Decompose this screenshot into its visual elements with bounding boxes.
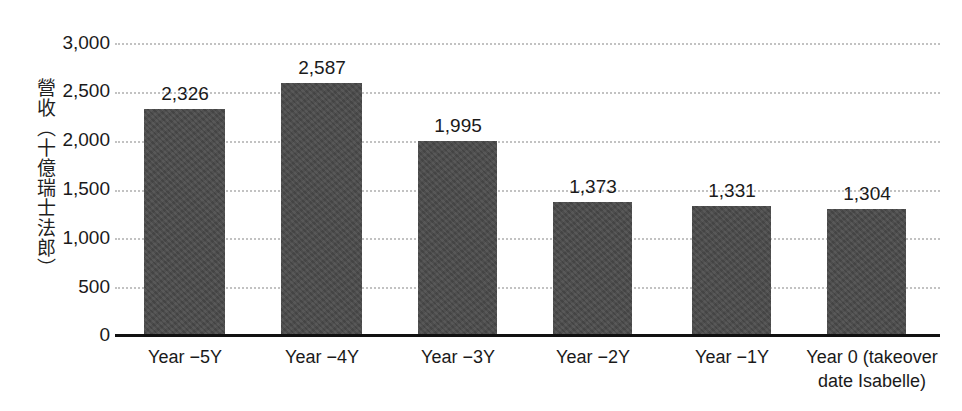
y-axis-tick-labels: 3,000 2,500 2,000 1,500 1,000 500 0 xyxy=(28,0,110,411)
gridline xyxy=(115,92,940,94)
gridline xyxy=(115,238,940,240)
x-label-line: Year −5Y xyxy=(148,347,222,367)
y-tick-label: 500 xyxy=(28,276,110,298)
bar-chart: 營收（十億瑞士法郎） 3,000 2,500 2,000 1,500 1,000… xyxy=(0,0,962,411)
bar-value-label: 1,304 xyxy=(843,183,891,205)
bar-value-label: 2,326 xyxy=(161,83,209,105)
y-tick-label: 2,500 xyxy=(28,80,110,102)
y-tick-label: 0 xyxy=(28,324,110,346)
x-axis-category-label: Year −5Y xyxy=(148,345,222,369)
plot-area xyxy=(115,43,940,336)
x-label-line: Year −1Y xyxy=(695,347,769,367)
y-tick-label: 1,500 xyxy=(28,178,110,200)
x-label-line: Year −4Y xyxy=(285,347,359,367)
y-tick-label: 3,000 xyxy=(28,32,110,54)
bar xyxy=(281,83,362,336)
x-label-line: Year 0 (takeover xyxy=(806,347,937,367)
bar xyxy=(418,141,497,336)
x-axis-line xyxy=(115,334,940,337)
x-axis-category-label: Year −3Y xyxy=(421,345,495,369)
gridline xyxy=(115,287,940,289)
bar xyxy=(553,202,632,336)
x-label-line: Year −2Y xyxy=(556,347,630,367)
bar xyxy=(692,206,771,336)
bar-value-label: 1,331 xyxy=(708,180,756,202)
gridline xyxy=(115,43,940,45)
bar-value-label: 2,587 xyxy=(298,57,346,79)
gridline xyxy=(115,141,940,143)
bar-value-label: 1,995 xyxy=(434,115,482,137)
x-label-line: date Isabelle) xyxy=(806,369,937,393)
y-tick-label: 1,000 xyxy=(28,227,110,249)
x-label-line: Year −3Y xyxy=(421,347,495,367)
x-axis-category-label: Year −4Y xyxy=(285,345,359,369)
gridline xyxy=(115,190,940,192)
bar xyxy=(144,109,225,336)
bar-value-label: 1,373 xyxy=(569,176,617,198)
x-axis-category-label: Year −1Y xyxy=(695,345,769,369)
bar xyxy=(827,209,906,336)
y-tick-label: 2,000 xyxy=(28,129,110,151)
x-axis-category-label: Year −2Y xyxy=(556,345,630,369)
x-axis-category-label: Year 0 (takeover date Isabelle) xyxy=(806,345,937,393)
